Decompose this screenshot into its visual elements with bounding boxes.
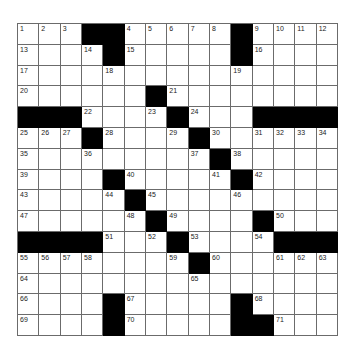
grid-cell[interactable] (274, 66, 295, 87)
grid-cell[interactable] (103, 149, 124, 170)
grid-cell[interactable] (125, 66, 146, 87)
grid-cell[interactable] (274, 45, 295, 66)
grid-cell[interactable]: 3 (61, 24, 82, 45)
grid-cell[interactable] (210, 45, 231, 66)
grid-cell[interactable] (61, 274, 82, 295)
grid-cell[interactable] (82, 294, 103, 315)
grid-cell[interactable] (103, 253, 124, 274)
grid-cell[interactable]: 38 (231, 149, 252, 170)
grid-cell[interactable] (189, 190, 210, 211)
grid-cell[interactable]: 13 (18, 45, 39, 66)
grid-cell[interactable]: 40 (125, 170, 146, 191)
grid-cell[interactable] (295, 149, 316, 170)
grid-cell[interactable] (274, 86, 295, 107)
grid-cell[interactable] (210, 315, 231, 336)
grid-cell[interactable]: 32 (274, 128, 295, 149)
grid-cell[interactable] (125, 274, 146, 295)
grid-cell[interactable] (82, 211, 103, 232)
grid-cell[interactable] (61, 66, 82, 87)
grid-cell[interactable] (274, 149, 295, 170)
grid-cell[interactable] (253, 149, 274, 170)
grid-cell[interactable] (82, 86, 103, 107)
grid-cell[interactable]: 9 (253, 24, 274, 45)
grid-cell[interactable]: 47 (18, 211, 39, 232)
grid-cell[interactable]: 41 (210, 170, 231, 191)
grid-cell[interactable] (167, 66, 188, 87)
grid-cell[interactable] (189, 86, 210, 107)
grid-cell[interactable]: 66 (18, 294, 39, 315)
grid-cell[interactable]: 5 (146, 24, 167, 45)
grid-cell[interactable] (39, 190, 60, 211)
grid-cell[interactable]: 2 (39, 24, 60, 45)
grid-cell[interactable] (39, 45, 60, 66)
grid-cell[interactable] (146, 170, 167, 191)
grid-cell[interactable] (39, 149, 60, 170)
grid-cell[interactable]: 1 (18, 24, 39, 45)
grid-cell[interactable] (231, 253, 252, 274)
grid-cell[interactable]: 45 (146, 190, 167, 211)
grid-cell[interactable] (231, 274, 252, 295)
grid-cell[interactable] (295, 315, 316, 336)
grid-cell[interactable]: 27 (61, 128, 82, 149)
grid-cell[interactable] (61, 190, 82, 211)
grid-cell[interactable] (146, 315, 167, 336)
grid-cell[interactable]: 4 (125, 24, 146, 45)
grid-cell[interactable]: 22 (82, 107, 103, 128)
grid-cell[interactable] (39, 86, 60, 107)
grid-cell[interactable] (125, 107, 146, 128)
grid-cell[interactable] (317, 45, 338, 66)
grid-cell[interactable] (146, 149, 167, 170)
grid-cell[interactable]: 16 (253, 45, 274, 66)
grid-cell[interactable] (253, 253, 274, 274)
grid-cell[interactable]: 26 (39, 128, 60, 149)
grid-cell[interactable] (274, 170, 295, 191)
grid-cell[interactable] (210, 211, 231, 232)
grid-cell[interactable]: 57 (61, 253, 82, 274)
grid-cell[interactable]: 37 (189, 149, 210, 170)
grid-cell[interactable]: 43 (18, 190, 39, 211)
grid-cell[interactable] (253, 190, 274, 211)
grid-cell[interactable] (210, 232, 231, 253)
grid-cell[interactable] (125, 253, 146, 274)
grid-cell[interactable] (125, 86, 146, 107)
grid-cell[interactable]: 55 (18, 253, 39, 274)
grid-cell[interactable]: 60 (210, 253, 231, 274)
grid-cell[interactable] (61, 170, 82, 191)
grid-cell[interactable] (210, 86, 231, 107)
grid-cell[interactable] (231, 128, 252, 149)
grid-cell[interactable] (210, 294, 231, 315)
grid-cell[interactable]: 65 (189, 274, 210, 295)
grid-cell[interactable] (146, 274, 167, 295)
grid-cell[interactable] (146, 128, 167, 149)
grid-cell[interactable] (146, 45, 167, 66)
grid-cell[interactable] (210, 190, 231, 211)
grid-cell[interactable]: 10 (274, 24, 295, 45)
grid-cell[interactable] (317, 170, 338, 191)
grid-cell[interactable]: 29 (167, 128, 188, 149)
grid-cell[interactable] (167, 190, 188, 211)
grid-cell[interactable] (317, 190, 338, 211)
grid-cell[interactable]: 61 (274, 253, 295, 274)
grid-cell[interactable]: 12 (317, 24, 338, 45)
grid-cell[interactable]: 63 (317, 253, 338, 274)
grid-cell[interactable] (39, 170, 60, 191)
grid-cell[interactable] (189, 170, 210, 191)
grid-cell[interactable] (189, 66, 210, 87)
grid-cell[interactable] (274, 274, 295, 295)
grid-cell[interactable] (295, 274, 316, 295)
grid-cell[interactable]: 59 (167, 253, 188, 274)
grid-cell[interactable] (167, 315, 188, 336)
grid-cell[interactable]: 44 (103, 190, 124, 211)
grid-cell[interactable] (231, 86, 252, 107)
grid-cell[interactable]: 58 (82, 253, 103, 274)
grid-cell[interactable]: 31 (253, 128, 274, 149)
grid-cell[interactable]: 39 (18, 170, 39, 191)
grid-cell[interactable] (82, 274, 103, 295)
grid-cell[interactable] (167, 45, 188, 66)
grid-cell[interactable] (39, 66, 60, 87)
grid-cell[interactable] (274, 294, 295, 315)
grid-cell[interactable] (295, 45, 316, 66)
grid-cell[interactable] (82, 170, 103, 191)
grid-cell[interactable]: 15 (125, 45, 146, 66)
grid-cell[interactable]: 19 (231, 66, 252, 87)
